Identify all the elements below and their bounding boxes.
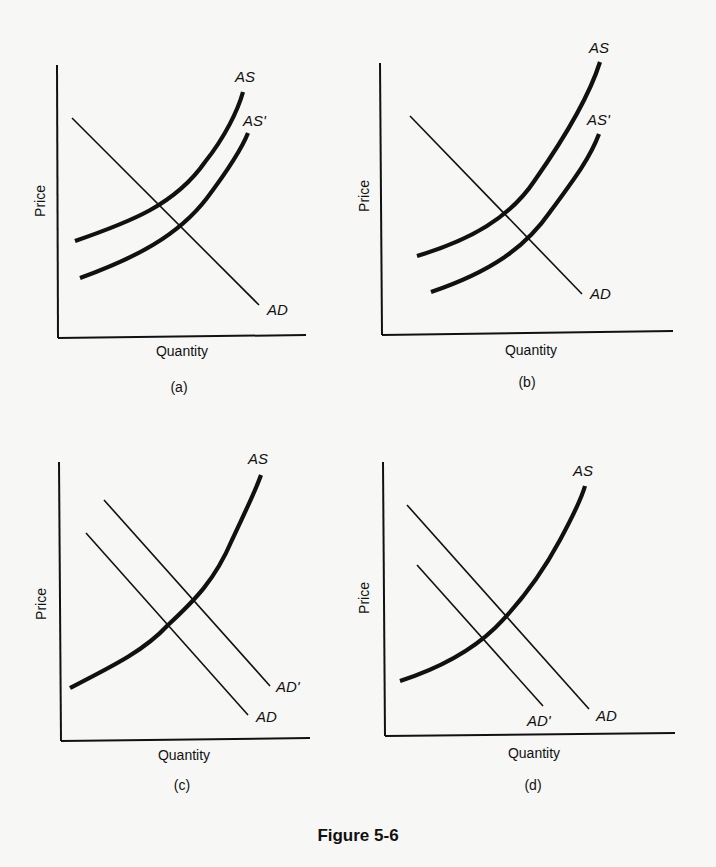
panel-a-as-curve bbox=[75, 92, 243, 241]
panel-d: AS AD AD' Price Quantity (d) bbox=[356, 462, 675, 793]
panel-d-ad-label: AD bbox=[595, 707, 617, 724]
panel-a-ad-label: AD bbox=[266, 301, 288, 318]
panel-a-as-label: AS bbox=[234, 68, 255, 85]
panel-c-x-axis bbox=[61, 738, 310, 741]
panel-a-y-label: Price bbox=[32, 185, 48, 217]
panel-c-x-label: Quantity bbox=[158, 747, 210, 763]
panel-d-as-curve bbox=[400, 486, 585, 681]
panel-b-ad-label: AD bbox=[589, 285, 611, 302]
panel-b-x-axis bbox=[382, 331, 673, 335]
panel-b: AS AS' AD Price Quantity (b) bbox=[356, 39, 673, 390]
panel-c-ad-shift-label: AD' bbox=[275, 678, 301, 695]
panel-d-y-label: Price bbox=[356, 582, 372, 614]
panel-c-label: (c) bbox=[174, 777, 190, 793]
panel-a-as-shift-curve bbox=[80, 133, 248, 278]
panel-a-y-axis bbox=[57, 65, 58, 338]
panel-d-label: (d) bbox=[524, 777, 541, 793]
panel-b-y-label: Price bbox=[356, 180, 372, 212]
panel-c: AS AD' AD Price Quantity (c) bbox=[33, 450, 310, 793]
panel-b-label: (b) bbox=[518, 374, 535, 390]
panel-c-as-curve bbox=[70, 475, 261, 688]
panel-a-x-label: Quantity bbox=[156, 343, 208, 359]
panel-a-x-axis bbox=[58, 335, 306, 338]
panel-d-x-label: Quantity bbox=[508, 745, 560, 761]
panel-d-y-axis bbox=[383, 462, 385, 736]
panel-c-as-label: AS bbox=[247, 450, 268, 467]
panel-d-x-axis bbox=[385, 733, 675, 736]
panel-b-x-label: Quantity bbox=[505, 342, 557, 358]
panel-b-as-curve bbox=[417, 62, 600, 256]
panel-b-as-label: AS bbox=[588, 39, 609, 56]
panel-a-label: (a) bbox=[170, 379, 187, 395]
panel-a-as-shift-label: AS' bbox=[242, 112, 267, 129]
panel-b-as-shift-label: AS' bbox=[586, 111, 611, 128]
panel-a-ad-line bbox=[72, 118, 259, 305]
panel-d-ad-shift-label: AD' bbox=[526, 712, 552, 729]
panel-c-y-label: Price bbox=[33, 588, 49, 620]
panel-b-as-shift-curve bbox=[431, 134, 599, 292]
figure-5-6: AS AS' AD Price Quantity (a) AS AS' AD P… bbox=[0, 0, 716, 867]
panel-c-ad-label: AD bbox=[255, 708, 277, 725]
panel-c-y-axis bbox=[59, 462, 61, 741]
figure-caption: Figure 5-6 bbox=[0, 826, 716, 846]
panel-b-y-axis bbox=[380, 63, 382, 335]
panel-d-as-label: AS bbox=[572, 462, 593, 479]
panel-a: AS AS' AD Price Quantity (a) bbox=[32, 65, 306, 395]
